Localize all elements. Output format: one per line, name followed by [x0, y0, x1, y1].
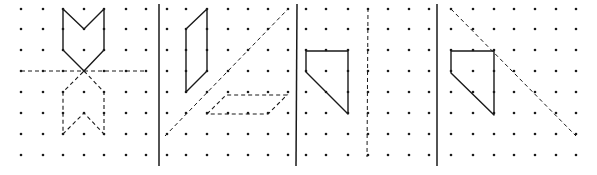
grid-dot	[408, 154, 411, 157]
grid-dot	[83, 154, 86, 157]
grid-dot	[125, 8, 128, 11]
grid-dot	[20, 28, 23, 31]
grid-dot	[408, 112, 411, 115]
grid-dot	[227, 49, 230, 52]
grid-dot	[305, 154, 308, 157]
grid-dot	[20, 154, 23, 157]
chevron-shape	[63, 9, 104, 71]
grid-dot	[145, 49, 148, 52]
panel-divider	[296, 4, 297, 166]
grid-dot	[42, 133, 45, 136]
grid-dot	[534, 8, 537, 11]
grid-dot	[166, 28, 169, 31]
grid-dot	[267, 70, 270, 73]
grid-dot	[575, 28, 578, 31]
grid-dot	[347, 28, 350, 31]
grid-dot	[83, 91, 86, 94]
grid-dot	[428, 49, 431, 52]
grid-dot	[575, 91, 578, 94]
grid-dot	[387, 154, 390, 157]
grid-dot	[206, 133, 209, 136]
grid-dot	[347, 154, 350, 157]
grid-dot	[428, 28, 431, 31]
grid-dot	[450, 91, 453, 94]
grid-dot	[185, 154, 188, 157]
grid-dot	[125, 154, 128, 157]
grid-dot	[450, 28, 453, 31]
dot-grid-figure	[0, 0, 597, 175]
grid-dot	[450, 112, 453, 115]
grid-dot	[428, 154, 431, 157]
grid-dot	[387, 70, 390, 73]
reflection-worksheet	[0, 0, 597, 175]
grid-dot	[42, 8, 45, 11]
grid-dot	[287, 70, 290, 73]
grid-dot	[534, 70, 537, 73]
grid-dot	[408, 49, 411, 52]
parallelogram-shape	[186, 9, 207, 92]
grid-dot	[555, 91, 558, 94]
grid-dot	[305, 133, 308, 136]
grid-dot	[103, 70, 106, 73]
grid-dot	[408, 91, 411, 94]
grid-dot	[166, 49, 169, 52]
grid-dot	[20, 49, 23, 52]
grid-dot	[428, 8, 431, 11]
grid-dot	[247, 8, 250, 11]
grid-dot	[185, 8, 188, 11]
grid-dot	[408, 28, 411, 31]
grid-dot	[555, 154, 558, 157]
grid-dot	[227, 133, 230, 136]
grid-dot	[166, 91, 169, 94]
grid-dot	[42, 154, 45, 157]
grid-dot	[166, 112, 169, 115]
grid-dot	[287, 28, 290, 31]
grid-dot	[166, 154, 169, 157]
grid-dot	[145, 133, 148, 136]
grid-dot	[145, 91, 148, 94]
grid-dot	[125, 28, 128, 31]
grid-dot	[227, 8, 230, 11]
grid-dot	[513, 91, 516, 94]
grid-dot	[513, 49, 516, 52]
grid-dot	[83, 8, 86, 11]
grid-dot	[166, 70, 169, 73]
grid-dot	[305, 112, 308, 115]
grid-dot	[450, 154, 453, 157]
grid-dot	[125, 133, 128, 136]
grid-dot	[534, 133, 537, 136]
grid-dot	[408, 8, 411, 11]
grid-dot	[534, 49, 537, 52]
grid-dot	[428, 91, 431, 94]
grid-dot	[267, 91, 270, 94]
grid-dot	[472, 8, 475, 11]
grid-dot	[408, 133, 411, 136]
grid-dot	[325, 28, 328, 31]
grid-dot	[247, 133, 250, 136]
grid-dot	[267, 154, 270, 157]
grid-dot	[287, 112, 290, 115]
grid-dot	[555, 70, 558, 73]
grid-dot	[513, 70, 516, 73]
grid-dot	[347, 133, 350, 136]
grid-dot	[493, 154, 496, 157]
grid-dot	[472, 133, 475, 136]
grid-dot	[287, 91, 290, 94]
grid-dot	[575, 8, 578, 11]
grid-dot	[428, 70, 431, 73]
grid-dot	[387, 8, 390, 11]
grid-dot	[206, 154, 209, 157]
grid-dot	[472, 70, 475, 73]
grid-dot	[305, 28, 308, 31]
grid-dot	[287, 133, 290, 136]
grid-dot	[20, 133, 23, 136]
grid-dot	[575, 70, 578, 73]
grid-dot	[145, 28, 148, 31]
grid-dot	[575, 112, 578, 115]
grid-dot	[247, 91, 250, 94]
grid-dot	[472, 154, 475, 157]
grid-dot	[145, 112, 148, 115]
grid-dot	[20, 91, 23, 94]
grid-dot	[247, 154, 250, 157]
grid-dot	[103, 154, 106, 157]
